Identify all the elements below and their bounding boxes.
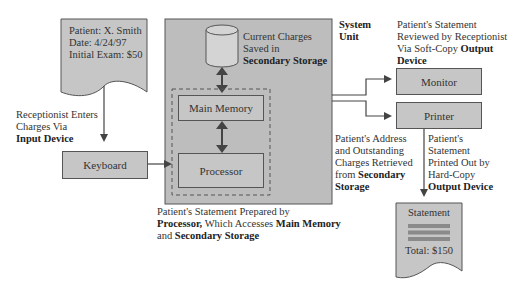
keyboard-box: Keyboard (62, 151, 148, 179)
monitor-caption-line-1: Patient's Statement (397, 19, 477, 31)
input-label-line-2: Charges Via (16, 121, 67, 133)
processor-label: Processor (200, 165, 243, 177)
input-document-line-3: Initial Exam: $50 (69, 49, 143, 61)
processor-caption-line-3: and Secondary Storage (157, 230, 259, 242)
monitor-label: Monitor (421, 76, 457, 88)
statement-total: Total: $150 (396, 245, 462, 257)
monitor-caption-line-3: Via Soft-Copy Output (397, 43, 493, 55)
input-label-line-1: Receptionist Enters (16, 109, 98, 121)
storage-label-line-2: Saved in (243, 43, 279, 55)
processor-caption-line-2: Processor, Which Accesses Main Memory (157, 218, 341, 230)
statement-title: Statement (396, 207, 462, 219)
monitor-caption-line-2: Reviewed by Receptionist (397, 31, 507, 43)
input-document-line-2: Date: 4/24/97 (69, 37, 126, 49)
printer-caption-line-4: Hard-Copy (428, 169, 475, 181)
retrieval-caption-line-2: and Outstanding (335, 145, 404, 157)
storage-label-line-3: Secondary Storage (243, 55, 327, 67)
storage-label-line-1: Current Charges (243, 31, 312, 43)
main-memory-label: Main Memory (189, 102, 253, 114)
retrieval-caption-line-5: Storage (335, 181, 369, 193)
main-memory-box: Main Memory (178, 95, 264, 121)
monitor-caption-line-4: Device (397, 55, 427, 67)
retrieval-caption-line-3: Charges Retrieved (335, 157, 413, 169)
system-unit-label-line-2: Unit (339, 31, 359, 43)
system-unit-label-line-1: System (339, 19, 371, 31)
secondary-storage-icon (206, 25, 238, 67)
printer-caption-line-5: Output Device (428, 181, 493, 193)
retrieval-caption-line-1: Patient's Address (335, 133, 407, 145)
processor-box: Processor (178, 153, 264, 188)
retrieval-caption-line-4: from Secondary (335, 169, 405, 181)
keyboard-label: Keyboard (83, 159, 126, 171)
input-document-line-1: Patient: X. Smith (69, 25, 142, 37)
monitor-box: Monitor (396, 68, 482, 95)
printer-label: Printer (424, 110, 454, 122)
printer-caption-line-2: Statement (428, 145, 470, 157)
printer-caption-line-1: Patient's (428, 133, 463, 145)
processor-caption-line-1: Patient's Statement Prepared by (157, 206, 290, 218)
input-label-line-3: Input Device (16, 133, 73, 145)
printer-caption-line-3: Printed Out by (428, 157, 490, 169)
printer-box: Printer (396, 102, 482, 129)
